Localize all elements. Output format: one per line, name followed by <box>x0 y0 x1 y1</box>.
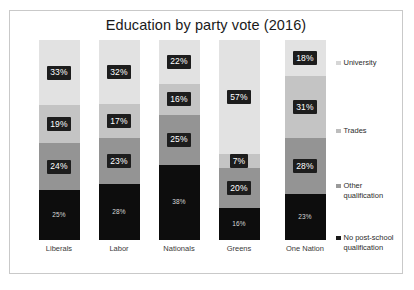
plot-area: 33%19%24%25%32%17%23%28%22%16%25%38%57%7… <box>22 40 322 240</box>
chart-frame: Education by party vote (2016) 33%19%24%… <box>9 10 403 274</box>
bar-segment: 20% <box>219 168 260 208</box>
bar-segment: 28% <box>285 138 326 194</box>
bar-segment: 16% <box>159 84 200 116</box>
legend-swatch-icon <box>336 236 341 241</box>
bar-value-label: 32% <box>107 65 131 79</box>
bar-column-liberals: 33%19%24%25% <box>39 40 80 240</box>
category-axis: LiberalsLaborNationalsGreensOne Nation <box>22 244 322 260</box>
legend-item[interactable]: No post-school qualification <box>336 233 402 252</box>
bar-segment: 19% <box>39 105 80 143</box>
bar-stack: 22%16%25%38% <box>159 40 200 240</box>
category-label-one-nation: One Nation <box>268 244 342 253</box>
bar-column-nationals: 22%16%25%38% <box>159 40 200 240</box>
bar-value-label: 20% <box>227 181 251 195</box>
bar-value-label: 28% <box>293 159 317 173</box>
bar-stack: 32%17%23%28% <box>99 40 140 240</box>
legend-item[interactable]: University <box>336 58 376 68</box>
legend-label: Other qualification <box>344 181 402 200</box>
bar-segment: 33% <box>39 40 80 105</box>
bar-segment: 32% <box>99 40 140 104</box>
bar-segment: 31% <box>285 76 326 138</box>
legend-item[interactable]: Other qualification <box>336 181 402 200</box>
bar-stack: 18%31%28%23% <box>285 40 326 240</box>
bar-value-label: 16% <box>167 92 191 106</box>
chart-legend: UniversityTradesOther qualificationNo po… <box>336 40 402 245</box>
legend-label: No post-school qualification <box>344 233 402 252</box>
bar-value-label: 38% <box>172 199 186 206</box>
bar-value-label: 7% <box>230 154 249 168</box>
bar-segment: 18% <box>285 40 326 76</box>
bar-value-label: 57% <box>227 90 251 104</box>
bar-segment: 38% <box>159 165 200 240</box>
bar-value-label: 25% <box>52 212 66 219</box>
bar-segment: 16% <box>219 208 260 240</box>
chart-title: Education by party vote (2016) <box>10 17 402 33</box>
bar-segment: 17% <box>99 104 140 138</box>
legend-swatch-icon <box>336 61 341 66</box>
bar-value-label: 17% <box>107 114 131 128</box>
legend-swatch-icon <box>336 129 341 134</box>
legend-label: Trades <box>344 126 367 136</box>
bar-column-greens: 57%7%20%16% <box>219 40 260 240</box>
bar-value-label: 22% <box>167 55 191 69</box>
bar-value-label: 31% <box>293 100 317 114</box>
bar-segment: 24% <box>39 143 80 191</box>
bar-segment: 22% <box>159 40 200 84</box>
legend-swatch-icon <box>336 184 341 189</box>
bar-segment: 28% <box>99 184 140 240</box>
bar-stack: 57%7%20%16% <box>219 40 260 240</box>
bar-column-labor: 32%17%23%28% <box>99 40 140 240</box>
bar-segment: 57% <box>219 40 260 154</box>
bar-value-label: 23% <box>107 154 131 168</box>
bar-segment: 23% <box>99 138 140 184</box>
bar-stack: 33%19%24%25% <box>39 40 80 240</box>
legend-label: University <box>344 58 377 68</box>
bar-value-label: 18% <box>293 51 317 65</box>
bar-value-label: 28% <box>112 209 126 216</box>
legend-item[interactable]: Trades <box>336 126 367 136</box>
bar-segment: 25% <box>159 115 200 165</box>
bar-segment: 7% <box>219 154 260 168</box>
category-label-greens: Greens <box>202 244 276 253</box>
bar-value-label: 25% <box>167 133 191 147</box>
bar-segment: 23% <box>285 194 326 240</box>
bar-value-label: 16% <box>232 221 246 228</box>
bar-column-one-nation: 18%31%28%23% <box>285 40 326 240</box>
bar-value-label: 23% <box>298 214 312 221</box>
bar-value-label: 33% <box>47 66 71 80</box>
bar-segment: 25% <box>39 190 80 240</box>
bar-value-label: 24% <box>47 160 71 174</box>
bar-value-label: 19% <box>47 117 71 131</box>
